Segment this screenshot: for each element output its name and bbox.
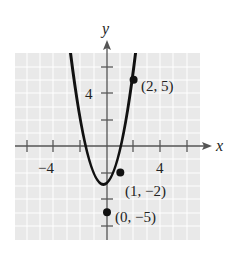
point-2-5 — [130, 76, 138, 84]
point-label-0-neg5: (0, −5) — [115, 209, 156, 226]
y-axis-label: y — [100, 20, 110, 38]
point-label-1-neg2: (1, −2) — [125, 183, 166, 200]
point-label-2-5: (2, 5) — [141, 78, 174, 95]
tick-label-x-neg4: −4 — [38, 160, 54, 176]
parabola-chart: y x −4 4 4 (2, 5) (1, −2) (0, −5) — [0, 0, 233, 259]
point-0-neg5 — [103, 208, 111, 216]
point-1-neg2 — [116, 169, 124, 177]
tick-label-y-4: 4 — [85, 86, 93, 102]
tick-label-x-4: 4 — [156, 160, 164, 176]
x-axis-label: x — [215, 137, 223, 154]
